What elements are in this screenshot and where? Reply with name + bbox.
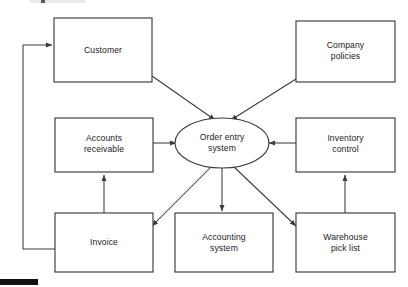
node-invoice-label: Invoice (90, 237, 118, 247)
node-order-entry-system[interactable]: Order entry system (175, 118, 269, 168)
node-accounting-system-label-line1: Accounting (202, 232, 246, 242)
node-inventory-control[interactable]: Inventory control (296, 118, 395, 172)
bottom-left-scan-artifact (0, 279, 38, 285)
diagram-canvas: Customer Company policies Accounts recei… (0, 0, 408, 287)
node-order-entry-system-label-line1: Order entry (200, 132, 245, 142)
node-customer[interactable]: Customer (54, 18, 152, 82)
node-company-policies[interactable]: Company policies (296, 21, 395, 82)
node-invoice[interactable]: Invoice (55, 213, 153, 272)
node-accounts-receivable-label-line1: Accounts (86, 133, 122, 143)
node-warehouse-pick-list-label-line1: Warehouse (323, 232, 368, 242)
node-warehouse-pick-list[interactable]: Warehouse pick list (296, 213, 395, 272)
node-accounting-system[interactable]: Accounting system (175, 213, 273, 272)
node-warehouse-pick-list-label-line2: pick list (331, 243, 361, 253)
node-inventory-control-label-line2: control (332, 144, 359, 154)
node-company-policies-label-line1: Company (327, 40, 365, 50)
node-accounts-receivable[interactable]: Accounts receivable (55, 118, 153, 172)
node-order-entry-system-label-line2: system (208, 143, 236, 153)
node-company-policies-label-line2: policies (331, 51, 360, 61)
edge-customer-to-order-entry (152, 76, 215, 120)
node-inventory-control-label-line1: Inventory (327, 133, 364, 143)
data-flow-diagram: Customer Company policies Accounts recei… (0, 0, 408, 287)
edge-company-policies-to-order-entry (231, 79, 296, 120)
node-accounting-system-label-line2: system (210, 243, 238, 253)
node-accounts-receivable-label-line2: receivable (84, 144, 124, 154)
node-customer-label: Customer (84, 45, 122, 55)
edge-invoice-to-customer (23, 45, 55, 249)
